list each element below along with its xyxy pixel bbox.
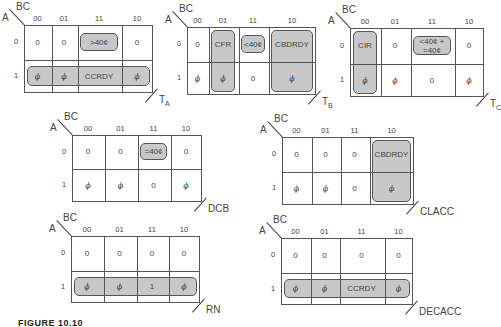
row-header: 0	[14, 37, 18, 46]
output-subscript: C	[496, 104, 501, 111]
output-name: CLACC	[420, 206, 454, 217]
kmap-cell: ϕ	[268, 61, 316, 95]
column-header: 11	[340, 126, 369, 135]
kmap-cell: ϕ	[121, 59, 153, 93]
column-header: 01	[311, 126, 340, 135]
column-header: 00	[72, 124, 104, 133]
kmap-cell: 0	[380, 28, 410, 63]
kmap-cell: CBDRDY	[369, 137, 414, 171]
kmap-t-b: 0CFR<40¢CBDRDYϕϕ0ϕ0001111001BCATB	[187, 27, 316, 95]
kmap-cell: ϕ	[380, 63, 410, 97]
kmap-cell: 0	[103, 236, 136, 270]
output-name: DECACC	[419, 306, 461, 317]
output-label: TB	[322, 96, 333, 109]
kmap-cell: ϕ	[51, 59, 77, 93]
kmap-cell: ϕ	[71, 270, 103, 303]
kmap-cell: CBDRDY	[268, 27, 316, 61]
kmap-rn: 0000ϕϕ1ϕ0001111001BCARN	[71, 236, 200, 303]
kmap-cell: 0	[72, 135, 104, 168]
kmap-clacc: 000CBDRDYϕϕ0ϕ0001111001BCACLACC	[282, 137, 414, 205]
row-header: 1	[177, 73, 181, 82]
kmap-cell: ϕ	[208, 61, 238, 95]
column-header: 10	[170, 124, 202, 133]
kmap-cell: ϕ	[103, 270, 136, 303]
kmap-cell: ϕ	[72, 168, 104, 202]
kmap-cell: 0	[340, 171, 369, 205]
output-name: RN	[206, 304, 220, 315]
row-header: 1	[272, 183, 276, 192]
col-variable-label: BC	[273, 214, 287, 225]
kmap-cell: >40¢	[77, 25, 121, 59]
kmap-cell: 0	[187, 27, 208, 61]
column-header: 10	[268, 16, 316, 25]
row-variable-label: A	[50, 122, 57, 133]
kmap-cell: 0	[311, 137, 340, 171]
kmap-cell: 0	[168, 236, 200, 270]
kmap-cell: ϕ	[24, 59, 51, 93]
kmap-cell: ϕ	[310, 272, 339, 305]
kmap-cell: 0	[136, 236, 168, 270]
kmap-cell: 0	[24, 25, 51, 59]
row-header: 1	[271, 284, 275, 293]
output-label: RN	[206, 304, 220, 315]
output-subscript: B	[328, 102, 333, 109]
output-label: CLACC	[420, 206, 454, 217]
column-header: 01	[380, 17, 410, 26]
kmap-cell: ϕ	[104, 168, 137, 202]
kmap-cell: <40¢ + =40¢	[410, 28, 454, 63]
kmap-cell: ϕ	[350, 63, 380, 97]
row-header: 1	[14, 71, 18, 80]
kmap-cell: ϕ	[369, 171, 414, 205]
column-header: 11	[238, 16, 268, 25]
column-header: 11	[77, 14, 121, 23]
kmap-cell: <40¢	[238, 27, 268, 61]
kmap-cell: ϕ	[168, 270, 200, 303]
column-header: 11	[410, 17, 454, 26]
column-header: 10	[369, 126, 414, 135]
kmap-cell: CCRDY	[77, 59, 121, 93]
kmap-cell: 0	[282, 137, 311, 171]
column-header: 01	[310, 227, 339, 236]
row-header: 0	[177, 39, 181, 48]
col-variable-label: BC	[342, 4, 356, 15]
kmap-cell: 0	[340, 137, 369, 171]
row-variable-label: A	[2, 12, 9, 23]
column-header: 00	[350, 17, 380, 26]
column-header: 01	[103, 225, 136, 234]
kmap-cell: CCRDY	[339, 272, 384, 305]
kmap-cell: CIR	[350, 28, 380, 63]
kmap-cell: ϕ	[281, 272, 310, 305]
row-header: 0	[272, 149, 276, 158]
column-header: 00	[282, 126, 311, 135]
column-header: 01	[104, 124, 137, 133]
output-label: TA	[159, 94, 170, 107]
row-variable-label: A	[165, 14, 172, 25]
kmap-cell: 0	[281, 238, 310, 272]
output-label: DCB	[208, 203, 229, 214]
kmap-cell: 0	[71, 236, 103, 270]
kmap-cell: CFR	[208, 27, 238, 61]
column-header: 01	[208, 16, 238, 25]
column-header: 10	[384, 227, 413, 236]
column-header: 10	[168, 225, 200, 234]
kmap-cell: 0	[170, 135, 202, 168]
column-header: 00	[187, 16, 208, 25]
kmap-t-c: CIR0<40¢ + =40¢0ϕϕ0ϕ0001111001BCATC	[350, 28, 484, 97]
kmap-cell: ϕ	[311, 171, 340, 205]
row-header: 1	[62, 180, 66, 189]
column-header: 11	[339, 227, 384, 236]
output-label: DECACC	[419, 306, 461, 317]
column-header: 10	[454, 17, 484, 26]
kmap-cell: ϕ	[384, 272, 413, 305]
kmap-t-a: 00>40¢0ϕϕCCRDYϕ0001111001BCATA	[24, 25, 153, 93]
row-variable-label: A	[260, 124, 267, 135]
kmap-cell: 0	[104, 135, 137, 168]
column-header: 00	[281, 227, 310, 236]
column-header: 01	[51, 14, 77, 23]
kmap-decacc: 0000ϕϕCCRDYϕ0001111001BCADECACC	[281, 238, 413, 305]
output-label: TC	[490, 98, 501, 111]
row-header: 1	[61, 282, 65, 291]
kmap-cell: 0	[51, 25, 77, 59]
row-header: 0	[340, 41, 344, 50]
kmap-cell: 0	[454, 28, 484, 63]
